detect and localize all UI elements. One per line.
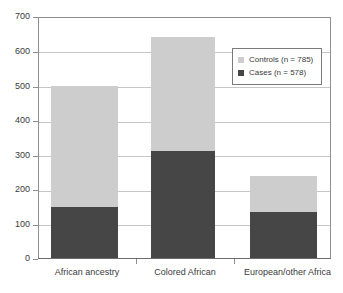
bar-segment-controls[interactable] (151, 37, 215, 151)
y-axis-tick-300: 300 (0, 156, 38, 157)
stacked-bar-chart: 700 600 500 400 300 200 100 0 (0, 0, 343, 293)
bar-segment-controls[interactable] (250, 176, 317, 212)
y-axis-tick-100: 100 (0, 225, 38, 226)
bar-segment-cases[interactable] (250, 212, 317, 258)
x-axis-separator (234, 259, 235, 264)
bar-african-ancestry[interactable] (51, 86, 118, 258)
x-axis-label-colored-african: Colored African (136, 266, 234, 278)
y-axis-tick-label: 600 (15, 46, 30, 57)
x-axis-label-european-other-africa: European/other Africa (232, 266, 343, 278)
y-axis-tick-700: 700 (0, 17, 38, 18)
bar-segment-cases[interactable] (151, 151, 215, 258)
bar-european-other-africa[interactable] (250, 176, 317, 258)
y-axis-tick-200: 200 (0, 190, 38, 191)
light-gray-swatch-icon (238, 57, 244, 63)
y-axis-tick-label: 200 (15, 184, 30, 195)
legend: Controls (n = 785) Cases (n = 578) (232, 48, 322, 85)
y-axis-tick-400: 400 (0, 121, 38, 122)
legend-item-cases[interactable]: Cases (n = 578) (238, 67, 316, 79)
legend-label: Cases (n = 578) (249, 68, 306, 78)
y-axis-tick-mark (33, 259, 38, 260)
legend-label: Controls (n = 785) (249, 55, 313, 65)
x-axis-label-african-ancestry: African ancestry (38, 266, 136, 278)
legend-item-controls[interactable]: Controls (n = 785) (238, 54, 316, 66)
y-axis-tick-label: 0 (25, 253, 30, 264)
y-axis-tick-label: 400 (15, 115, 30, 126)
y-axis-tick-label: 100 (15, 219, 30, 230)
bar-segment-controls[interactable] (51, 86, 118, 207)
bar-colored-african[interactable] (151, 37, 215, 258)
y-axis-tick-label: 300 (15, 150, 30, 161)
y-axis-tick-600: 600 (0, 52, 38, 53)
y-axis-tick-label: 500 (15, 81, 30, 92)
x-axis-separator (136, 259, 137, 264)
dark-gray-swatch-icon (238, 70, 244, 76)
y-axis-tick-0: 0 (0, 259, 38, 260)
bar-segment-cases[interactable] (51, 207, 118, 258)
y-axis-tick-label: 700 (15, 11, 30, 22)
y-axis-tick-500: 500 (0, 87, 38, 88)
